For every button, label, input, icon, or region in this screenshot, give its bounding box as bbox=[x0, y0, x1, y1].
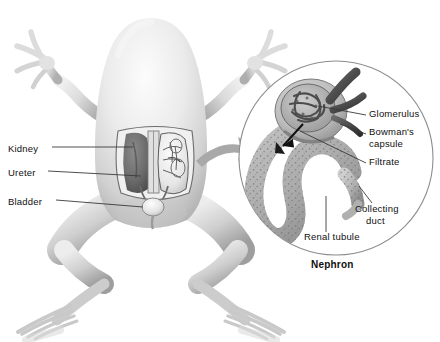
label-glomerulus: Glomerulus bbox=[369, 108, 419, 120]
frog-forelimb-left bbox=[17, 32, 104, 118]
illustration bbox=[0, 0, 440, 342]
label-filtrate: Filtrate bbox=[369, 156, 400, 168]
label-kidney: Kidney bbox=[8, 143, 38, 155]
label-renal-tubule: Renal tubule bbox=[304, 231, 360, 243]
label-ureter: Ureter bbox=[8, 167, 36, 179]
label-collecting-duct-line2: duct bbox=[366, 215, 385, 227]
label-bowmans-capsule: Bowman's bbox=[369, 126, 414, 138]
label-collecting-duct: Collecting bbox=[355, 203, 399, 215]
figure-caption: Nephron bbox=[311, 259, 354, 271]
label-bladder: Bladder bbox=[8, 196, 42, 208]
frog-hindlimb-left bbox=[18, 205, 112, 340]
label-bowmans-capsule-line2: capsule bbox=[369, 138, 403, 150]
nephron-detail bbox=[239, 61, 433, 255]
anatomy-figure: Kidney Ureter Bladder Glomerulus Bowman'… bbox=[0, 0, 440, 342]
